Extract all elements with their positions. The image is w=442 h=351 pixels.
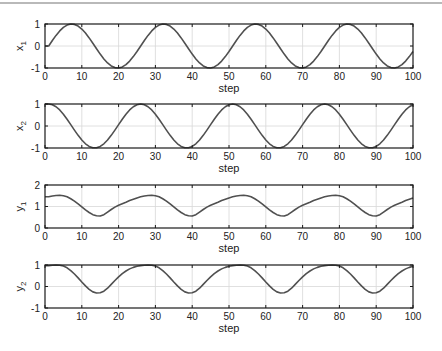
- x-tick-label: 60: [260, 151, 272, 162]
- x-tick-label: 70: [297, 71, 309, 82]
- grid: [45, 104, 413, 148]
- x-tick-label: 60: [260, 231, 272, 242]
- y-tick-label: 0: [34, 281, 40, 292]
- x-tick-label: 10: [76, 311, 88, 322]
- x-tick-label: 40: [187, 151, 199, 162]
- x-tick-label: 0: [42, 311, 48, 322]
- subplot-x1: 0102030405060708090100-101stepx1: [13, 19, 422, 95]
- x-axis-label: step: [219, 82, 240, 94]
- x-tick-label: 40: [187, 231, 199, 242]
- x-tick-label: 0: [42, 231, 48, 242]
- x-tick-label: 50: [223, 151, 235, 162]
- x-tick-label: 50: [223, 71, 235, 82]
- y-tick-label: 2: [34, 180, 40, 191]
- x-tick-label: 30: [150, 71, 162, 82]
- x-tick-label: 90: [371, 71, 383, 82]
- x-tick-label: 30: [150, 311, 162, 322]
- y-tick-label: 1: [34, 99, 40, 110]
- x-tick-label: 100: [405, 151, 422, 162]
- x-tick-label: 70: [297, 231, 309, 242]
- x-tick-label: 90: [371, 231, 383, 242]
- x-tick-label: 80: [334, 311, 346, 322]
- x-tick-label: 40: [187, 311, 199, 322]
- y-tick-label: -1: [31, 63, 40, 74]
- x-axis-label: step: [219, 322, 240, 334]
- x-tick-label: 100: [405, 71, 422, 82]
- y-axis-label: x1: [13, 40, 28, 51]
- x-tick-label: 0: [42, 151, 48, 162]
- grid: [45, 24, 413, 68]
- grid: [45, 265, 413, 308]
- x-tick-label: 0: [42, 71, 48, 82]
- x-tick-label: 50: [223, 231, 235, 242]
- x-tick-label: 60: [260, 71, 272, 82]
- y-tick-label: 0: [34, 41, 40, 52]
- x-tick-label: 20: [113, 231, 125, 242]
- y-tick-label: 1: [34, 260, 40, 271]
- x-tick-label: 100: [405, 231, 422, 242]
- subplot-x2: 0102030405060708090100-101stepx2: [13, 99, 422, 175]
- x-tick-label: 10: [76, 151, 88, 162]
- y-tick-label: 1: [34, 19, 40, 30]
- x-tick-label: 10: [76, 71, 88, 82]
- x-axis-label: step: [219, 242, 240, 254]
- y-tick-label: -1: [31, 143, 40, 154]
- x-tick-label: 30: [150, 231, 162, 242]
- x-tick-label: 40: [187, 71, 199, 82]
- subplot-y1: 0102030405060708090100012stepy1: [13, 180, 422, 255]
- x-tick-label: 80: [334, 151, 346, 162]
- x-tick-label: 80: [334, 231, 346, 242]
- x-tick-label: 80: [334, 71, 346, 82]
- y-axis-label: y2: [13, 281, 28, 292]
- y-tick-label: 0: [34, 223, 40, 234]
- x-tick-label: 70: [297, 311, 309, 322]
- x-axis-label: step: [219, 162, 240, 174]
- x-tick-label: 20: [113, 71, 125, 82]
- y-axis-label: y1: [13, 201, 28, 212]
- x-tick-label: 30: [150, 151, 162, 162]
- x-tick-label: 100: [405, 311, 422, 322]
- x-tick-label: 50: [223, 311, 235, 322]
- x-tick-label: 10: [76, 231, 88, 242]
- y-tick-label: 1: [34, 201, 40, 212]
- x-tick-label: 90: [371, 311, 383, 322]
- figure: 0102030405060708090100-101stepx101020304…: [0, 0, 442, 351]
- x-tick-label: 20: [113, 311, 125, 322]
- x-tick-label: 20: [113, 151, 125, 162]
- x-tick-label: 90: [371, 151, 383, 162]
- y-axis-label: x2: [13, 120, 28, 131]
- y-tick-label: -1: [31, 303, 40, 314]
- x-tick-label: 70: [297, 151, 309, 162]
- x-tick-label: 60: [260, 311, 272, 322]
- subplot-y2: 0102030405060708090100-101stepy2: [13, 260, 422, 335]
- y-tick-label: 0: [34, 121, 40, 132]
